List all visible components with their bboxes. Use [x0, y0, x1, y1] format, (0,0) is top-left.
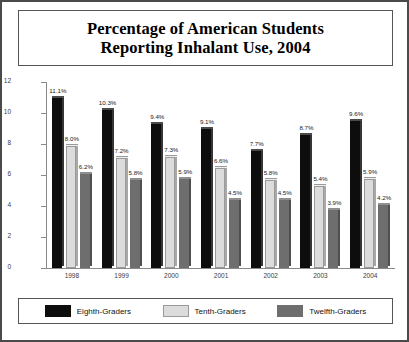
bar-value-label: 4.5% [228, 189, 242, 196]
bar-value-label: 6.6% [214, 157, 228, 164]
y-tick-label: 2 [7, 232, 11, 239]
bar[interactable]: 8.0% [66, 144, 78, 268]
bar-value-label: 4.2% [377, 194, 391, 201]
bar[interactable]: 4.2% [378, 203, 390, 268]
bar[interactable]: 9.6% [350, 119, 362, 268]
x-axis-labels: 1998199920002001200220032004 [47, 272, 395, 279]
bar-side [239, 198, 241, 266]
bar-side [388, 203, 390, 266]
title-line-2: Reporting Inhalant Use, 2004 [101, 38, 311, 57]
bar-value-label: 8.0% [65, 135, 79, 142]
y-tick: 4 [14, 206, 46, 207]
bar-side [175, 155, 177, 266]
bar-slot: 4.2% [378, 82, 390, 268]
x-tick-label: 2001 [196, 272, 246, 279]
bar-top [52, 96, 64, 98]
x-tick-label: 1998 [47, 272, 97, 279]
bar-value-label: 11.1% [49, 87, 66, 94]
x-axis-line [46, 268, 395, 269]
bar-side [338, 208, 340, 266]
bar-face [314, 186, 324, 268]
bar-side [261, 149, 263, 266]
bar[interactable]: 4.5% [229, 198, 241, 268]
bar-slot: 7.3% [165, 82, 177, 268]
bar-side [324, 184, 326, 266]
bar-side [161, 122, 163, 266]
bar-slot: 11.1% [52, 82, 64, 268]
title-line-1: Percentage of American Students [87, 19, 324, 38]
bar[interactable]: 7.3% [165, 155, 177, 268]
bar-top [116, 156, 128, 158]
x-tick-label: 2004 [345, 272, 395, 279]
bar-group: 9.6%5.9%4.2% [345, 82, 395, 268]
bar[interactable]: 8.7% [300, 133, 312, 268]
bar-value-label: 10.3% [99, 99, 117, 106]
bar-top [165, 155, 177, 157]
y-tick-label: 10 [4, 108, 11, 115]
bar-value-label: 5.9% [178, 168, 192, 175]
bar[interactable]: 5.8% [130, 178, 142, 268]
bar[interactable]: 6.6% [215, 166, 227, 268]
bar-top [251, 149, 263, 151]
bar-side [360, 119, 362, 266]
bar-face [300, 135, 310, 268]
bar-top [130, 178, 142, 180]
bar-slot: 6.6% [215, 82, 227, 268]
legend-item[interactable]: Eighth-Graders [45, 305, 131, 317]
bar-side [62, 96, 64, 266]
bar[interactable]: 7.2% [116, 156, 128, 268]
y-tick-label: 0 [7, 263, 11, 270]
bar-face [279, 200, 289, 268]
bar-face [350, 121, 360, 268]
y-tick-label: 12 [4, 77, 11, 84]
bar[interactable]: 4.5% [279, 198, 291, 268]
bar-face [102, 110, 112, 268]
bar[interactable]: 6.2% [80, 172, 92, 268]
bar-slot: 4.5% [279, 82, 291, 268]
bar[interactable]: 5.4% [314, 184, 326, 268]
bar-face [80, 174, 90, 268]
y-tick: 12 [14, 82, 46, 83]
bar[interactable]: 10.3% [102, 108, 114, 268]
bar[interactable]: 5.9% [179, 177, 191, 268]
bar-slot: 4.5% [229, 82, 241, 268]
bar-face [364, 179, 374, 268]
bar-slot: 5.9% [364, 82, 376, 268]
bar-top [378, 203, 390, 205]
bar[interactable]: 5.9% [364, 177, 376, 268]
bar[interactable]: 5.8% [265, 178, 277, 268]
bar-face [165, 157, 175, 268]
bar-side [374, 177, 376, 266]
bar-value-label: 9.1% [200, 118, 214, 125]
bar-top [215, 166, 227, 168]
bar[interactable]: 11.1% [52, 96, 64, 268]
bar-value-label: 5.8% [129, 169, 143, 176]
y-tick-label: 8 [7, 139, 11, 146]
bar-top [314, 184, 326, 186]
y-tick: 2 [14, 237, 46, 238]
bar-group: 9.4%7.3%5.9% [146, 82, 196, 268]
bar-side [189, 177, 191, 266]
bar-face [378, 205, 388, 268]
bar-face [179, 179, 189, 268]
bar-value-label: 5.4% [313, 175, 327, 182]
bar[interactable]: 7.7% [251, 149, 263, 268]
x-tick-label: 2002 [246, 272, 296, 279]
bar-slot: 7.2% [116, 82, 128, 268]
bar-slot: 9.4% [151, 82, 163, 268]
bar-face [116, 158, 126, 268]
legend-item[interactable]: Twelfth-Graders [277, 305, 366, 317]
bar-side [225, 166, 227, 266]
bar[interactable]: 9.1% [201, 127, 213, 268]
bar-value-label: 8.7% [299, 124, 313, 131]
bar[interactable]: 3.9% [328, 208, 340, 268]
bar-top [201, 127, 213, 129]
bar-slot: 5.9% [179, 82, 191, 268]
y-tick-label: 4 [7, 201, 11, 208]
bar[interactable]: 9.4% [151, 122, 163, 268]
bar-top [265, 178, 277, 180]
bar-slot: 9.1% [201, 82, 213, 268]
legend-item[interactable]: Tenth-Graders [163, 305, 246, 317]
bar-value-label: 9.4% [150, 113, 164, 120]
legend-swatch [163, 305, 189, 317]
